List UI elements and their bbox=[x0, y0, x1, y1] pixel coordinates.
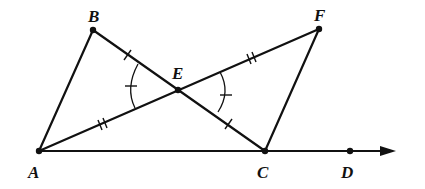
label-d: D bbox=[340, 163, 353, 182]
segment-fc bbox=[265, 29, 319, 151]
point-b bbox=[90, 27, 96, 33]
angle-arc-fec bbox=[218, 72, 225, 112]
label-f: F bbox=[313, 6, 326, 25]
label-a: A bbox=[27, 163, 39, 182]
arrowhead-icon bbox=[380, 146, 396, 156]
segment-ab bbox=[39, 30, 93, 151]
label-c: C bbox=[257, 163, 269, 182]
point-c bbox=[262, 148, 268, 154]
label-e: E bbox=[171, 64, 183, 83]
geometry-diagram: B E F A C D bbox=[0, 0, 425, 189]
point-d bbox=[347, 148, 353, 154]
point-f bbox=[316, 26, 322, 32]
point-a bbox=[36, 148, 42, 154]
label-b: B bbox=[87, 7, 99, 26]
point-e bbox=[175, 87, 181, 93]
